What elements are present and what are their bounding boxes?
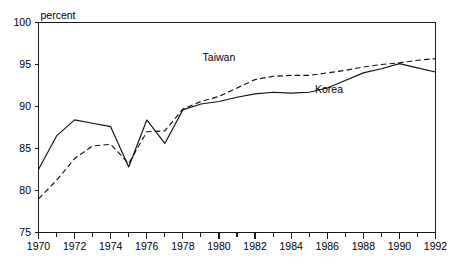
- x-axis-tick-label: 1972: [63, 240, 87, 252]
- x-axis-tick-label: 1988: [352, 240, 376, 252]
- x-axis-tick-label: 1978: [171, 240, 195, 252]
- x-axis-tick-label: 1982: [243, 240, 267, 252]
- y-axis-tick-label: 90: [19, 100, 31, 112]
- y-axis-tick-label: 85: [19, 142, 31, 154]
- y-axis-tick-label: 95: [19, 58, 31, 70]
- x-axis-tick-label: 1976: [135, 240, 159, 252]
- x-axis-tick-label: 1970: [27, 240, 51, 252]
- x-axis-tick-label: 1980: [207, 240, 231, 252]
- x-axis-tick-label: 1974: [99, 240, 123, 252]
- x-axis-tick-label: 1992: [424, 240, 448, 252]
- series-label-korea: Korea: [315, 83, 343, 95]
- x-axis-tick-label: 1986: [316, 240, 340, 252]
- series-label-taiwan: Taiwan: [203, 51, 236, 63]
- x-axis-tick-label: 1984: [279, 240, 303, 252]
- plot-frame-top-left: [39, 23, 436, 233]
- series-line-taiwan: [39, 59, 436, 199]
- y-axis-tick-label: 80: [19, 184, 31, 196]
- line-chart-canvas: 7580859095100197019721974197619781980198…: [0, 0, 453, 276]
- x-axis-tick-label: 1990: [388, 240, 412, 252]
- y-axis-tick-label: 75: [19, 226, 31, 238]
- y-axis-tick-label: 100: [13, 16, 31, 28]
- series-line-korea: [39, 64, 436, 170]
- plot-frame-bottom-right: [39, 23, 436, 233]
- chart-figure: 7580859095100197019721974197619781980198…: [0, 0, 453, 276]
- y-axis-unit-label: percent: [41, 9, 76, 21]
